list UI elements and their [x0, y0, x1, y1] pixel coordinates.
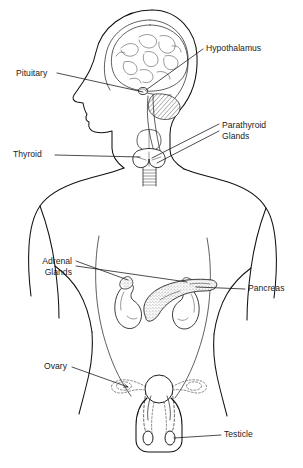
anatomy-illustration: Hypothalamus Pituitary Parathyroid Gland…	[0, 0, 303, 468]
abdominal-organs	[115, 277, 217, 329]
body-outline	[29, 10, 277, 416]
thyroid-gland	[133, 130, 165, 187]
leader-testicle	[174, 435, 221, 438]
leader-parathyroid-2	[157, 131, 219, 163]
trachea	[143, 168, 156, 186]
label-parathyroid-glands-line1: Parathyroid	[222, 120, 266, 130]
testicle-organ	[136, 396, 182, 452]
label-ovary: Ovary	[44, 361, 68, 371]
label-parathyroid-glands-line2: Glands	[222, 131, 249, 141]
label-thyroid: Thyroid	[13, 149, 42, 159]
kidney-left	[115, 277, 142, 329]
leader-parathyroid-1	[152, 124, 219, 158]
leader-thyroid	[55, 155, 140, 157]
label-hypothalamus: Hypothalamus	[206, 43, 261, 53]
leader-adrenal-1	[76, 261, 128, 280]
label-adrenal-glands-line1: Adrenal	[42, 256, 72, 266]
label-pancreas: Pancreas	[248, 283, 284, 293]
brain	[104, 20, 188, 161]
label-pituitary: Pituitary	[16, 68, 48, 78]
endocrine-system-diagram: Hypothalamus Pituitary Parathyroid Gland…	[0, 0, 303, 468]
label-testicle: Testicle	[224, 429, 253, 439]
label-adrenal-glands-line2: Glands	[45, 267, 72, 277]
leader-pituitary	[57, 73, 143, 92]
